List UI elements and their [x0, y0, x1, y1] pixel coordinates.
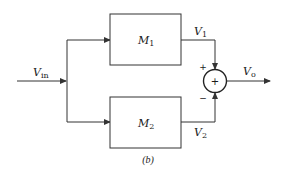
input-signal: Vin	[17, 66, 66, 81]
block-m1: M1	[110, 14, 181, 65]
signal-v1: V1	[181, 25, 215, 69]
summing-junction: + + −	[199, 62, 226, 103]
signal-v2: V2	[181, 93, 215, 140]
figure-caption: (b)	[142, 154, 154, 166]
plus-sign: +	[199, 62, 207, 72]
minus-sign: −	[199, 93, 207, 103]
v1-label: V1	[194, 25, 207, 39]
v2-label: V2	[194, 126, 207, 140]
output-label: Vo	[243, 65, 256, 79]
block-m2: M2	[110, 97, 181, 148]
input-label: Vin	[33, 66, 49, 80]
output-signal: Vo	[227, 65, 271, 81]
block-diagram: Vin M1 M2 V1 V2 + + − Vo (b)	[0, 0, 301, 174]
summer-symbol: +	[211, 76, 219, 87]
